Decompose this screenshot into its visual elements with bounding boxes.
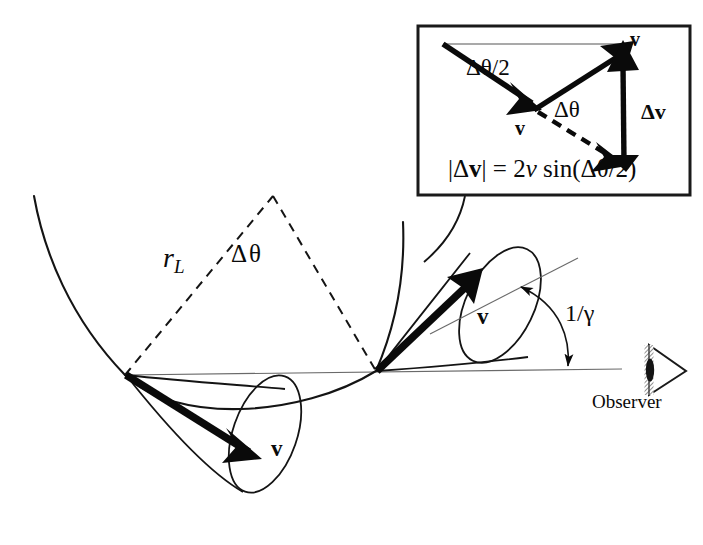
formula-function: sin(	[543, 155, 581, 182]
velocity-right-label: v	[477, 305, 489, 328]
larmor-radius-symbol: r	[163, 242, 174, 273]
formula-vec-v: v	[469, 155, 482, 182]
physics-diagram-canvas	[0, 0, 703, 545]
observer-label: Observer	[592, 392, 662, 411]
inset-v-initial-label: v	[515, 118, 525, 138]
velocity-vector-left	[126, 375, 262, 463]
dashed-chord-triangle	[125, 196, 376, 375]
formula-close-paren: )	[628, 155, 636, 182]
observer-eye-icon	[646, 345, 686, 395]
right-emission-cone	[377, 234, 558, 375]
formula-abs-open: |Δ	[448, 155, 469, 182]
formula-argument: Δθ/2	[581, 155, 629, 182]
larmor-radius-label: rL	[163, 244, 185, 276]
formula-speed: v	[526, 155, 537, 182]
beaming-angle-label: 1/γ	[565, 301, 594, 325]
helical-particle-trajectory	[34, 196, 403, 409]
formula-coefficient: 2	[513, 155, 526, 182]
inset-formula: |Δv| = 2v sin(Δθ/2)	[448, 156, 636, 181]
inset-v-final-label: v	[630, 29, 640, 49]
inset-delta-theta-label: Δθ	[554, 98, 580, 121]
velocity-left-label: v	[271, 437, 283, 460]
formula-equals: =	[493, 155, 507, 182]
figure-root: Δθ/2 Δθ v v Δv |Δv| = 2v sin(Δθ/2) rL Δθ…	[0, 0, 703, 545]
formula-abs-close: |	[482, 155, 487, 182]
inset-half-angle-label: Δθ/2	[466, 56, 510, 79]
inset-leader-line	[424, 196, 465, 262]
inset-delta-v-label: Δv	[641, 101, 666, 123]
larmor-radius-subscript: L	[174, 256, 185, 277]
main-delta-theta-label: Δθ	[231, 241, 263, 266]
